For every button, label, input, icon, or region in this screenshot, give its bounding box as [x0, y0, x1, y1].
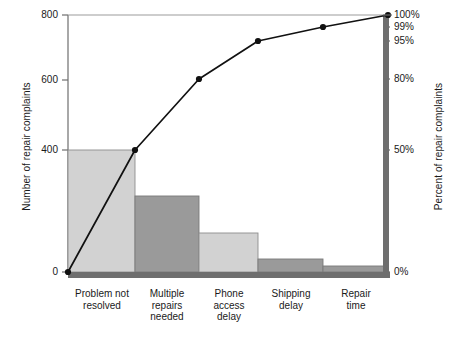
left-axis-ticks — [62, 15, 68, 272]
cumulative-point-2 — [196, 76, 202, 82]
x-category-label-shipping-delay: Shipping delay — [253, 288, 329, 311]
y-tick-left-0: 0 — [18, 266, 58, 277]
cumulative-point-0 — [65, 269, 71, 275]
cumulative-point-3 — [255, 38, 261, 44]
pareto-chart: Number of repair complaints Percent of r… — [0, 0, 454, 345]
y-tick-right-50: 50% — [394, 144, 442, 155]
y-tick-right-0: 0% — [394, 266, 442, 277]
bar-series — [68, 150, 388, 272]
y-tick-right-95: 95% — [394, 35, 442, 46]
y-tick-right-99: 99% — [394, 21, 442, 32]
y-tick-right-80: 80% — [394, 73, 442, 84]
bar-repair-time — [323, 266, 388, 272]
x-category-label-repair-time: Repair time — [319, 288, 393, 311]
y-tick-right-100: 100% — [394, 9, 442, 20]
bar-shipping-delay — [258, 259, 323, 272]
y-tick-left-600: 600 — [18, 74, 58, 85]
y-tick-left-400: 400 — [18, 144, 58, 155]
bar-phone-access-delay — [199, 233, 258, 272]
cumulative-point-4 — [320, 24, 326, 30]
cumulative-point-1 — [132, 147, 138, 153]
y-tick-left-800: 800 — [18, 9, 58, 20]
bar-multiple-repairs-needed — [135, 196, 199, 272]
